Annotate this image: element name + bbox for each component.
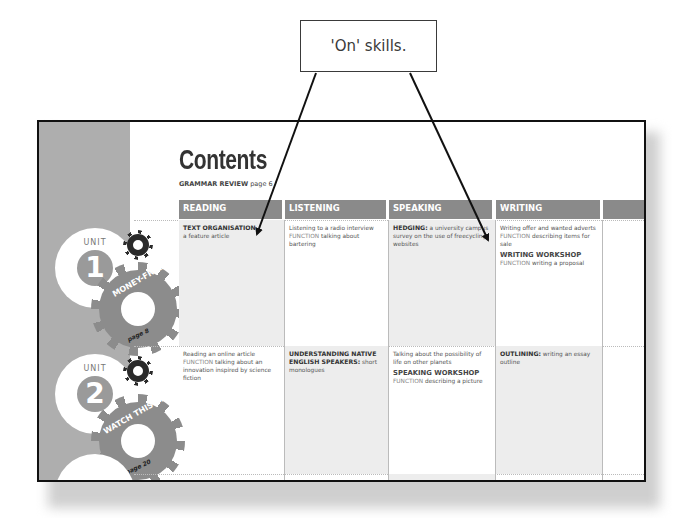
function-label: FUNCTION <box>183 359 213 365</box>
cell-text: a feature article <box>183 233 229 239</box>
workshop-title: SPEAKING WORKSHOP <box>393 369 491 377</box>
column-header-extra <box>603 200 646 219</box>
column-header-listening: LISTENING <box>285 200 386 219</box>
cell-unit2-reading: Reading an online article FUNCTION talki… <box>179 346 285 474</box>
function-label: FUNCTION <box>500 233 530 239</box>
cell-unit1-listening: Listening to a radio interview FUNCTION … <box>285 220 389 346</box>
unit-label: UNIT <box>59 364 131 373</box>
cell-unit2-writing: OUTLINING: writing an essay outline <box>496 346 603 474</box>
unit-label: UNIT <box>59 238 131 247</box>
skill-focus: TEXT ORGANISATION <box>183 224 256 231</box>
function-label: FUNCTION <box>289 233 319 239</box>
gear-hole <box>121 292 155 326</box>
skill-focus: OUTLINING: <box>500 350 541 357</box>
cell-unit3-listening <box>285 474 389 482</box>
small-gear-icon <box>127 360 149 382</box>
cell-unit1-writing: Writing offer and wanted adverts FUNCTIO… <box>496 220 603 346</box>
grammar-review: GRAMMAR REVIEW page 6 <box>179 180 273 188</box>
function-text: writing a proposal <box>532 260 584 266</box>
function-text: describing a picture <box>425 378 483 384</box>
cell-text: Talking about the possibility of life on… <box>393 351 481 365</box>
callout-text: 'On' skills. <box>331 37 407 55</box>
column-header-speaking: SPEAKING <box>389 200 492 219</box>
callout-box: 'On' skills. <box>300 20 437 72</box>
cell-unit1-speaking: HEDGING: a university campus survey on t… <box>389 220 496 346</box>
cell-text: Listening to a radio interview <box>289 225 374 231</box>
grammar-review-page: page 6 <box>250 180 272 188</box>
function-label: FUNCTION <box>500 260 530 266</box>
gear-hole <box>121 424 155 458</box>
function-label: FUNCTION <box>393 378 423 384</box>
small-gear-icon <box>127 234 149 256</box>
column-header-reading: READING <box>179 200 282 219</box>
cell-text: Writing offer and wanted adverts <box>500 225 596 231</box>
cell-unit1-reading: TEXT ORGANISATION a feature article <box>179 220 285 346</box>
cell-unit2-listening: UNDERSTANDING NATIVE ENGLISH SPEAKERS: s… <box>285 346 389 474</box>
column-header-writing: WRITING <box>496 200 600 219</box>
contents-page: UNIT 1 MONEY-FREE page 8 UNIT 2 WATCH TH… <box>37 120 646 482</box>
cell-unit3-reading <box>179 474 285 482</box>
cell-unit3-writing <box>496 474 603 482</box>
cell-text: Reading an online article <box>183 351 255 357</box>
cell-unit2-speaking: Talking about the possibility of life on… <box>389 346 496 474</box>
workshop-title: WRITING WORKSHOP <box>500 251 598 259</box>
unit-1-title-gear: MONEY-FREE page 8 <box>99 270 177 348</box>
cell-unit3-speaking <box>389 474 496 482</box>
grammar-review-label: GRAMMAR REVIEW <box>179 180 248 188</box>
skill-focus: HEDGING: <box>393 224 428 231</box>
page-title: Contents <box>179 144 267 176</box>
